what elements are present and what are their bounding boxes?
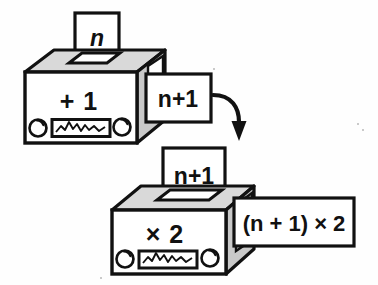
knob-icon-left[interactable] <box>117 251 134 268</box>
function-machine-figure: n + 1 n+1 n+1 × 2 (n + 1) × 2 <box>0 0 378 285</box>
curved-arrow-icon <box>213 95 247 141</box>
input-card-n-label: n <box>90 25 104 51</box>
operation-label-plus-one: + 1 <box>60 87 98 115</box>
scan-artifact <box>213 68 215 70</box>
output-card-n-plus-1-label: n+1 <box>158 86 198 112</box>
waveform-meter-icon <box>139 251 197 268</box>
figure-canvas: n + 1 n+1 n+1 × 2 (n + 1) × 2 <box>0 0 378 285</box>
scan-artifact <box>357 123 359 125</box>
card-slot-icon-top <box>157 190 222 200</box>
scan-artifact <box>100 277 102 279</box>
output-card-result-label: (n + 1) × 2 <box>243 211 346 236</box>
knob-icon-right[interactable] <box>202 250 219 267</box>
knob-icon-left[interactable] <box>30 120 47 137</box>
operation-label-times-two: × 2 <box>146 220 184 248</box>
knob-icon-right[interactable] <box>114 119 131 136</box>
machine-plus-one[interactable] <box>25 13 211 143</box>
input-card-n-plus-1-label: n+1 <box>174 163 214 189</box>
waveform-meter-icon <box>52 120 110 137</box>
scan-artifact <box>362 129 364 131</box>
